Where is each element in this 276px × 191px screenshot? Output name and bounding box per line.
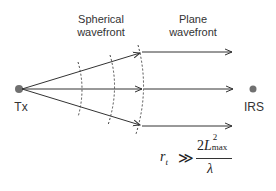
fraction-bar (196, 158, 232, 159)
tx-label: Tx (11, 101, 31, 114)
spherical-wavefront-label: Spherical wavefront (66, 13, 136, 39)
formula-r-sub: t (165, 157, 168, 167)
plane-label-line2: wavefront (158, 26, 228, 39)
plane-wavefront-label: Plane wavefront (158, 13, 228, 39)
wavefront-diagram (0, 0, 276, 191)
formula-coef: 2 (197, 138, 204, 153)
ray-bottom (22, 89, 140, 125)
formula-sub: max (212, 142, 228, 152)
formula-numerator: 2L2max (197, 138, 233, 154)
formula-denominator: λ (207, 161, 213, 177)
formula-L: L (204, 138, 212, 153)
irs-label: IRS (241, 101, 267, 114)
spherical-label-line2: wavefront (66, 26, 136, 39)
formula-relation: ≫ (178, 149, 194, 167)
ray-top (22, 53, 140, 89)
wavefront-arc-2 (108, 55, 115, 125)
formula-lhs: rt (160, 149, 168, 167)
tx-node (15, 85, 23, 93)
formula-sup: 2 (213, 132, 218, 142)
plane-label-line1: Plane (158, 13, 228, 26)
spherical-label-line1: Spherical (66, 13, 136, 26)
irs-node (250, 86, 257, 93)
